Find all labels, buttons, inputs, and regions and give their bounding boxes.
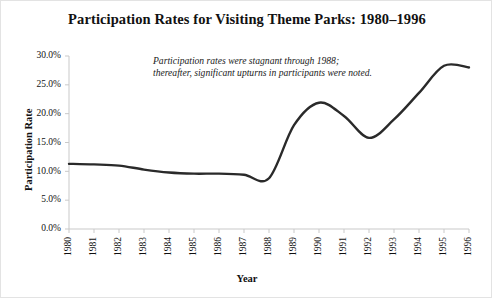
x-tick-label: 1991: [338, 237, 348, 256]
y-axis: 30.0%25.0%20.0%15.0%10.0%5.0%0.0%: [36, 50, 69, 233]
x-tick-label: 1995: [438, 237, 448, 256]
x-tick-label: 1981: [88, 237, 98, 256]
x-tick-label: 1996: [463, 237, 473, 256]
y-tick-label: 25.0%: [36, 79, 61, 89]
y-tick-label: 15.0%: [36, 137, 61, 147]
y-tick-labels: 30.0%25.0%20.0%15.0%10.0%5.0%0.0%: [36, 50, 61, 233]
x-tick-label: 1992: [363, 237, 373, 256]
y-tick-label: 5.0%: [41, 194, 61, 204]
y-tick-label: 10.0%: [36, 166, 61, 176]
x-tick-label: 1989: [288, 237, 298, 256]
y-tick-marks: [65, 56, 69, 229]
chart-figure: Participation Rates for Visiting Theme P…: [0, 0, 492, 298]
x-tick-marks: [69, 229, 469, 233]
y-tick-label: 0.0%: [41, 223, 61, 233]
x-tick-label: 1980: [63, 237, 73, 256]
x-axis: 1980198119821983198419851986198719881989…: [63, 229, 473, 256]
x-tick-label: 1985: [188, 237, 198, 256]
y-tick-label: 20.0%: [36, 108, 61, 118]
plot-area: 30.0%25.0%20.0%15.0%10.0%5.0%0.0% 198019…: [1, 1, 492, 298]
x-tick-label: 1994: [413, 237, 423, 256]
x-tick-label: 1993: [388, 237, 398, 256]
x-tick-labels: 1980198119821983198419851986198719881989…: [63, 237, 473, 256]
x-tick-label: 1987: [238, 237, 248, 256]
x-tick-label: 1982: [113, 237, 123, 256]
x-tick-label: 1990: [313, 237, 323, 256]
y-tick-label: 30.0%: [36, 50, 61, 60]
data-series-line: [69, 64, 469, 181]
x-tick-label: 1984: [163, 237, 173, 256]
x-tick-label: 1988: [263, 237, 273, 256]
x-tick-label: 1986: [213, 237, 223, 256]
x-tick-label: 1983: [138, 237, 148, 256]
